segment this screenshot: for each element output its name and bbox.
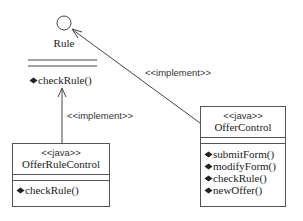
class-name: OfferControl <box>201 121 285 134</box>
operation-diamond-icon <box>204 175 212 181</box>
class-header: <<java>> OfferControl <box>201 107 285 137</box>
implement-label-right: <<implement>> <box>145 67 211 79</box>
stereotype: <<java>> <box>201 110 285 121</box>
class-offer-control[interactable]: <<java>> OfferControl submitForm() modif… <box>200 106 286 207</box>
class-offer-rule-control[interactable]: <<java>> OfferRuleControl checkRule() <box>12 143 110 207</box>
operation: checkRule() <box>205 172 285 184</box>
operations-compartment: checkRule() <box>13 181 109 196</box>
operation-diamond-icon <box>204 187 212 193</box>
attribute-compartment <box>13 174 109 181</box>
operations-compartment: submitForm() modifyForm() checkRule() ne… <box>201 144 285 196</box>
implement-label-left: <<implement>> <box>67 110 133 122</box>
operation-diamond-icon <box>204 151 212 157</box>
operation: modifyForm() <box>205 160 285 172</box>
class-header: <<java>> OfferRuleControl <box>13 144 109 174</box>
operation: newOffer() <box>205 184 285 196</box>
interface-operation: checkRule() <box>30 74 92 86</box>
operation-diamond-icon <box>204 163 212 169</box>
operation-diamond-icon <box>29 77 37 83</box>
interface-circle-icon <box>57 16 71 30</box>
class-name: OfferRuleControl <box>13 158 109 171</box>
operation: checkRule() <box>17 184 109 196</box>
stereotype: <<java>> <box>13 147 109 158</box>
attribute-compartment <box>201 137 285 144</box>
operation-diamond-icon <box>16 187 24 193</box>
interface-name: Rule <box>54 37 75 49</box>
operation: submitForm() <box>205 148 285 160</box>
